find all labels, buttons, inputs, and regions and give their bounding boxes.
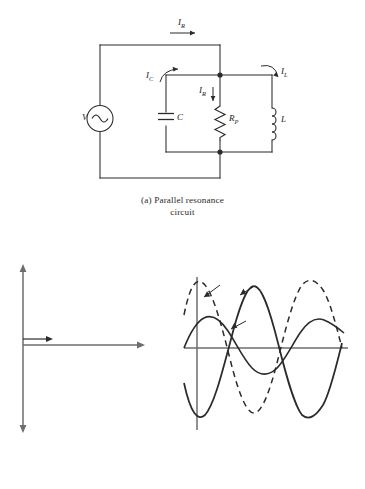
label-resistor: RP <box>229 113 238 125</box>
label-capacitor: C <box>177 112 183 122</box>
phasor-arrowhead-down <box>20 425 27 433</box>
curve-ir-solid <box>184 317 344 374</box>
node-dot-top <box>217 72 222 77</box>
phasor-ir <box>23 336 53 342</box>
panel-parallel-resonance-circuit: IR V IC IR IL C RP L (a) Parallel resona… <box>0 0 365 230</box>
label-total-current: IR <box>178 17 185 29</box>
curve-il-solid <box>184 286 342 418</box>
inductor-symbol <box>272 108 276 140</box>
caption-panel-a-line2: circuit <box>85 206 280 218</box>
label-source-voltage: V <box>82 112 88 122</box>
phasor-arrowhead-up <box>20 264 27 272</box>
phasor-axes <box>0 255 180 445</box>
label-il: IL <box>281 66 288 78</box>
waveform-plot <box>178 255 365 430</box>
resistor-symbol <box>215 106 225 141</box>
panel-waveforms: IC IL IR (c) Waveforms of IC, IL, and IR… <box>178 255 365 489</box>
label-ic: IC <box>146 70 153 82</box>
panel-phasor-diagram: IC IL IR V (b) Phasor diagram for parall… <box>0 255 180 489</box>
caption-panel-a-line1: (a) Parallel resonance <box>85 194 280 206</box>
caption-panel-a: (a) Parallel resonance circuit <box>85 194 280 218</box>
label-ir: IR <box>199 85 206 97</box>
phasor-arrowhead-right <box>137 342 145 349</box>
capacitor-symbol <box>158 114 174 120</box>
ac-voltage-source <box>87 106 113 132</box>
curve-ic-dashed <box>184 280 342 413</box>
node-dot-bottom <box>217 149 222 154</box>
circuit-schematic <box>0 0 365 200</box>
label-inductor: L <box>281 114 286 124</box>
